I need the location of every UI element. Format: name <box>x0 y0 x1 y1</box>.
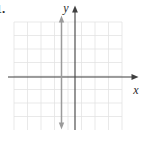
problem-number: 1. <box>0 1 5 16</box>
plotted-line-bottom-arrowhead-icon <box>59 123 64 130</box>
plotted-line-top-arrowhead-icon <box>59 16 64 23</box>
x-axis-label: x <box>132 83 139 97</box>
plotted-vertical-line <box>59 16 64 130</box>
x-axis-arrowhead-icon <box>132 74 139 80</box>
y-axis-arrowhead-icon <box>72 6 78 13</box>
coordinate-plane-svg: y x 1. <box>0 0 142 145</box>
y-axis <box>72 6 78 131</box>
y-axis-label: y <box>62 1 69 15</box>
coordinate-plane-figure: y x 1. <box>0 0 142 145</box>
grid-lines <box>14 22 122 130</box>
